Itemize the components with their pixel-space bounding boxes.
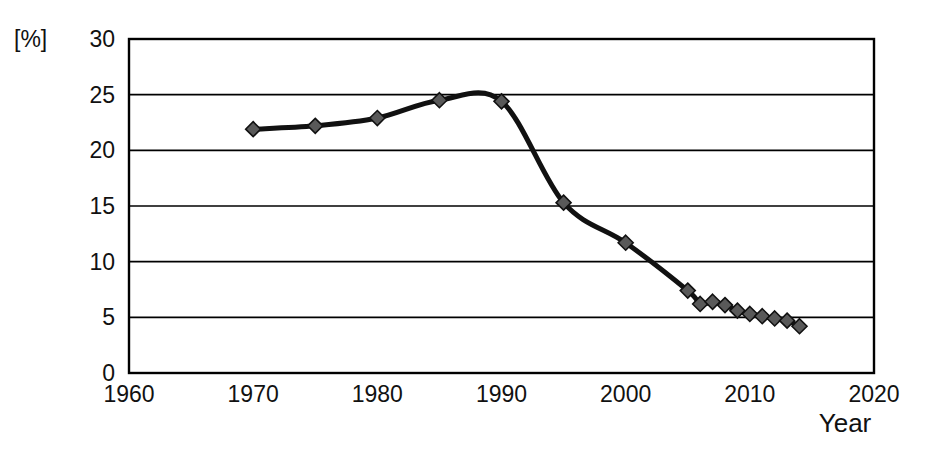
x-tick-label-1970: 1970 [228, 381, 279, 407]
x-tick-label-2020: 2020 [848, 381, 899, 407]
y-axis-unit-label: [%] [14, 26, 47, 52]
x-tick-label-2010: 2010 [724, 381, 775, 407]
y-tick-label-15: 15 [89, 193, 115, 219]
line-chart: 051015202530 196019701980199020002010202… [0, 0, 928, 470]
x-tick-label-2000: 2000 [600, 381, 651, 407]
x-tick-label-1980: 1980 [352, 381, 403, 407]
y-tick-label-30: 30 [89, 26, 115, 52]
y-tick-label-20: 20 [89, 137, 115, 163]
x-axis-title: Year [819, 408, 872, 438]
y-tick-label-25: 25 [89, 82, 115, 108]
y-tick-label-10: 10 [89, 249, 115, 275]
x-tick-label-1960: 1960 [103, 381, 154, 407]
x-tick-label-1990: 1990 [476, 381, 527, 407]
y-tick-label-5: 5 [102, 304, 115, 330]
